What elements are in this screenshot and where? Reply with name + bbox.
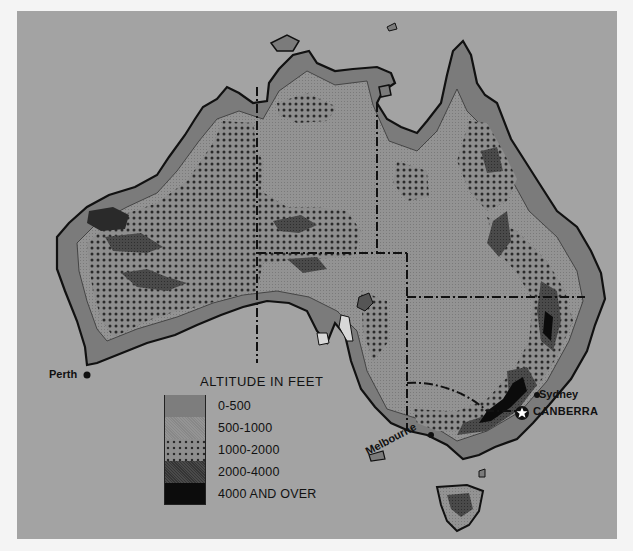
legend-label: 1000-2000 bbox=[218, 443, 280, 457]
lake-gairdner bbox=[317, 333, 329, 345]
legend-label: 4000 AND OVER bbox=[218, 487, 316, 501]
city-label-sydney: Sydney bbox=[539, 388, 578, 400]
capital-label-canberra: CANBERRA bbox=[533, 405, 598, 417]
torres-islands bbox=[387, 23, 397, 31]
legend-item-1000-2000: 1000-2000 bbox=[164, 439, 323, 461]
legend-item-2000-4000: 2000-4000 bbox=[164, 461, 323, 483]
legend-item-500-1000: 500-1000 bbox=[164, 417, 323, 439]
legend-item-4000-plus: 4000 AND OVER bbox=[164, 483, 323, 505]
legend-swatch-500-1000 bbox=[164, 417, 206, 439]
map-legend: ALTITUDE IN FEET 0-500 500-1000 1000-200… bbox=[164, 374, 323, 505]
legend-label: 500-1000 bbox=[218, 421, 272, 435]
legend-swatch-1000-2000 bbox=[164, 439, 206, 461]
map-frame: Perth Sydney CANBERRA Melbourne ALTITUDE… bbox=[17, 11, 617, 539]
legend-label: 0-500 bbox=[218, 399, 251, 413]
legend-item-0-500: 0-500 bbox=[164, 395, 323, 417]
legend-title: ALTITUDE IN FEET bbox=[200, 374, 323, 389]
groote-eylandt bbox=[379, 85, 391, 97]
legend-swatch-4000-plus bbox=[164, 483, 206, 505]
canberra-star-icon bbox=[515, 406, 529, 420]
flinders-island bbox=[479, 469, 485, 477]
city-label-perth: Perth bbox=[49, 368, 77, 380]
perth-marker bbox=[84, 372, 91, 379]
legend-label: 2000-4000 bbox=[218, 465, 280, 479]
legend-swatch-2000-4000 bbox=[164, 461, 206, 483]
melville-island bbox=[271, 35, 299, 51]
legend-swatch-0-500 bbox=[164, 395, 206, 417]
melbourne-marker bbox=[428, 432, 434, 438]
